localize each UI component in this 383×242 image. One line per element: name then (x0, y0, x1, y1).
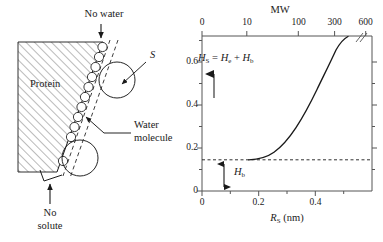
hs-eq-h3: H (242, 52, 250, 63)
x-tick-label-0: 0 (192, 197, 212, 208)
top-axis-ticks (202, 31, 366, 36)
top-tick-label-300: 300 (322, 17, 347, 28)
water-molecule (91, 62, 100, 71)
hs-equation-annotation: HS = He + Hb (198, 52, 254, 64)
x-tick-label-0.2: 0.2 (246, 197, 271, 208)
right-axis-ticks (372, 62, 377, 170)
top-tick-label-10: 10 (236, 17, 258, 28)
water-molecule (94, 52, 103, 61)
hs-eq-equals: = (209, 52, 220, 63)
water-molecule-label-line1: Water (134, 119, 159, 131)
no-solute-label-line2: solute (24, 220, 76, 232)
no-water-label: No water (74, 8, 134, 20)
water-molecule (77, 102, 86, 111)
no-solute-label-line1: No (24, 207, 76, 219)
solute-exclusion-diagram: No water Protein S Water molecule No sol… (0, 0, 192, 242)
top-tick-label-100: 100 (286, 17, 311, 28)
y-tick-label-0.2: 0.2 (174, 142, 198, 153)
y-tick-label-0: 0 (182, 185, 198, 196)
x-axis-title-unit: (nm) (283, 212, 303, 223)
water-molecule-label-line2: molecule (134, 132, 172, 144)
water-molecule (84, 82, 93, 91)
y-tick-label-0.6: 0.6 (174, 56, 198, 67)
hb-label: Hb (234, 166, 245, 178)
water-molecule (70, 122, 79, 131)
solute-sphere-upper (99, 62, 135, 98)
water-molecule (98, 42, 107, 51)
protein-label: Protein (30, 78, 60, 90)
hb-label-sub: b (242, 171, 245, 178)
x-tick-label-0.4: 0.4 (303, 197, 328, 208)
top-tick-label-0: 0 (192, 17, 212, 28)
water-molecule (87, 72, 96, 81)
y-tick-label-0.4: 0.4 (174, 99, 198, 110)
water-molecule-leader (86, 117, 131, 133)
hydration-plot: MW 0 10 100 300 600 0 0.2 0.4 0.6 0 0.2 … (190, 0, 383, 242)
figure-root: No water Protein S Water molecule No sol… (0, 0, 383, 242)
hydration-curve (249, 37, 348, 160)
water-molecule (73, 112, 82, 121)
solute-label: S (150, 49, 155, 61)
x-axis-major-ticks (202, 191, 315, 196)
solute-sphere-lower (62, 140, 98, 176)
top-tick-label-600: 600 (353, 17, 378, 28)
diagram-canvas (0, 0, 192, 242)
hb-label-base: H (234, 166, 242, 177)
hs-eq-plus: + (231, 52, 242, 63)
top-axis-title: MW (250, 4, 310, 16)
hs-eq-h1: H (198, 52, 206, 63)
x-axis-title: RS (nm) (242, 212, 332, 224)
water-molecule (66, 132, 75, 141)
water-molecule (80, 92, 89, 101)
hs-eq-s3: b (250, 57, 253, 64)
plot-canvas (190, 0, 383, 242)
